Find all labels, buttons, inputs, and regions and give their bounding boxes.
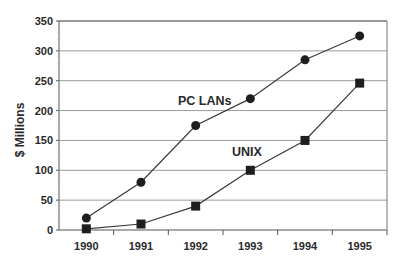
y-axis-title: $ Millions — [13, 102, 27, 157]
y-tick-label: 200 — [35, 105, 53, 117]
y-tick-label: 250 — [35, 75, 53, 87]
y-tick-label: 350 — [35, 15, 53, 27]
x-tick-label: 1994 — [293, 240, 318, 252]
axes — [59, 21, 387, 230]
series-label-pc-lans: PC LANs — [178, 94, 232, 108]
data-point-circle — [82, 214, 91, 223]
x-tick-label: 1992 — [183, 240, 207, 252]
x-tick-label: 1991 — [129, 240, 153, 252]
line-chart: 050100150200250300350 199019911992199319… — [0, 0, 401, 263]
y-tick-label: 100 — [35, 164, 53, 176]
y-tick-label: 50 — [41, 194, 53, 206]
data-point-circle — [355, 31, 364, 40]
gridlines — [59, 21, 387, 200]
data-point-square — [246, 166, 255, 175]
data-point-square — [301, 136, 310, 145]
y-axis-ticks: 050100150200250300350 — [35, 15, 59, 236]
data-point-circle — [246, 94, 255, 103]
data-point-square — [355, 79, 364, 88]
x-axis-ticks: 199019911992199319941995 — [74, 230, 387, 252]
series-group — [82, 31, 364, 233]
x-tick-label: 1990 — [74, 240, 98, 252]
data-point-square — [82, 224, 91, 233]
y-tick-label: 0 — [47, 224, 53, 236]
series-pc-lans — [82, 31, 364, 222]
data-point-circle — [137, 178, 146, 187]
data-point-square — [137, 220, 146, 229]
x-tick-label: 1995 — [347, 240, 371, 252]
y-tick-label: 300 — [35, 45, 53, 57]
series-line — [86, 36, 359, 218]
data-point-square — [191, 202, 200, 211]
data-point-circle — [191, 121, 200, 130]
data-point-circle — [301, 55, 310, 64]
x-tick-label: 1993 — [238, 240, 262, 252]
y-tick-label: 150 — [35, 134, 53, 146]
series-label-unix: UNIX — [232, 145, 263, 159]
